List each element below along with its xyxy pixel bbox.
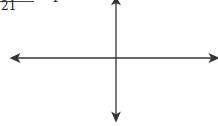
coordinate-axes [0,0,218,126]
